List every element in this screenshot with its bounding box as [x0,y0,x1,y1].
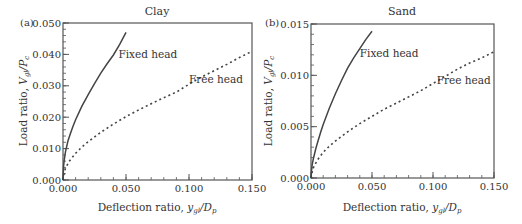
x-axis-var-sub: gl [193,207,200,215]
series-line-fixed-head [63,32,126,180]
y-tick-label: 0.030 [32,80,61,91]
x-axis-den-sub: p [457,207,462,215]
chart-title: Sand [388,5,416,18]
series-label-fixed-head: Fixed head [118,48,177,60]
panel-sand: (b) Sand Deflection ratio, ygl/Dp Load r… [262,5,508,215]
x-axis-title: Deflection ratio, ygl/Dp [343,201,462,215]
y-axis-den-sub: c [23,56,31,60]
y-tick-label: 0.050 [32,18,61,29]
y-tick-label: 0.000 [280,173,309,184]
series-line-free-head [311,52,494,178]
y-tick-label: 0.010 [32,143,61,154]
x-axis-den: /D [444,201,458,213]
x-axis-den: /D [199,201,213,213]
y-axis-title-text: Load ratio, [262,85,274,146]
x-axis-var-sub: gl [438,207,445,215]
series-label-free-head: Free head [437,74,491,86]
x-axis-title: Deflection ratio, ygl/Dp [98,201,217,215]
x-axis-title-text: Deflection ratio, [343,201,433,213]
y-axis-title: Load ratio, Vgl/Pc [17,56,31,146]
y-axis-title: Load ratio, Vgl/Pc [262,56,276,146]
x-tick-label: 0.150 [238,183,267,194]
series-label-free-head: Free head [189,73,243,85]
panel-clay: (a) Clay Deflection ratio, ygl/Dp Load r… [17,5,266,215]
x-tick-label: 0.150 [480,181,509,192]
series-label-fixed-head: Fixed head [360,47,419,59]
y-axis-title-text: Load ratio, [17,85,29,146]
x-tick-label: 0.100 [175,183,204,194]
x-axis-den-sub: p [212,207,217,215]
x-tick-label: 0.050 [358,181,387,192]
y-tick-label: 0.010 [280,70,309,81]
y-tick-label: 0.000 [32,175,61,186]
y-tick-label: 0.020 [32,112,61,123]
panel-tag: (b) [265,17,279,28]
series-line-free-head [63,51,252,180]
chart-title: Clay [145,5,170,18]
y-axis-var-sub: gl [268,70,276,77]
y-tick-label: 0.015 [280,19,309,30]
x-tick-label: 0.050 [112,183,141,194]
x-axis-title-text: Deflection ratio, [98,201,188,213]
y-tick-label: 0.040 [32,49,61,60]
figure: (a) Clay Deflection ratio, ygl/Dp Load r… [0,0,522,224]
y-tick-label: 0.005 [280,121,309,132]
x-tick-label: 0.100 [419,181,448,192]
y-axis-den-sub: c [268,56,276,60]
y-axis-var-sub: gl [23,70,31,77]
